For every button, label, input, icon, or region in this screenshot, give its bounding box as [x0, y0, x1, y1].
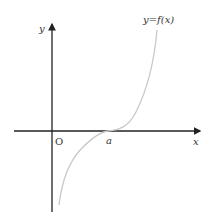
function-curve: [59, 30, 157, 205]
origin-label: O: [55, 136, 63, 147]
function-graph: y x O a y=f(x): [0, 0, 212, 223]
y-axis-label: y: [38, 23, 45, 34]
a-tick-label: a: [106, 135, 112, 146]
x-axis-label: x: [193, 136, 199, 147]
curve-label: y=f(x): [142, 14, 174, 25]
